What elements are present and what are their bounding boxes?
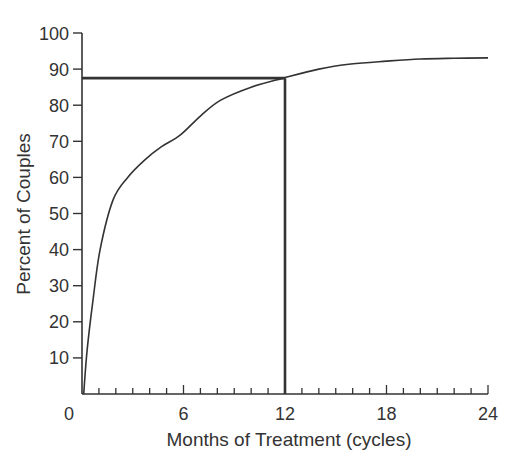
y-axis-label: Percent of Couples [13,133,34,295]
y-tick-label: 70 [49,132,69,152]
chart: 102030405060708090100 06121824 Months of… [0,0,514,467]
y-tick-label: 90 [49,60,69,80]
x-tick-label: 12 [275,404,295,424]
y-tick-label: 20 [49,312,69,332]
y-axis-ticks: 102030405060708090100 [39,24,82,369]
y-tick-label: 30 [49,276,69,296]
chart-svg: 102030405060708090100 06121824 Months of… [0,0,514,467]
x-axis-label: Months of Treatment (cycles) [167,429,412,450]
x-tick-label: 18 [376,404,396,424]
y-tick-label: 40 [49,240,69,260]
x-axis-ticks: 06121824 [64,385,498,424]
y-tick-label: 80 [49,96,69,116]
annotation-lines [82,78,285,394]
y-tick-label: 100 [39,24,69,44]
x-tick-label: 24 [478,404,498,424]
x-tick-label: 6 [178,404,188,424]
y-tick-label: 50 [49,204,69,224]
y-tick-label: 10 [49,348,69,368]
x-tick-label: 0 [64,404,74,424]
y-tick-label: 60 [49,168,69,188]
